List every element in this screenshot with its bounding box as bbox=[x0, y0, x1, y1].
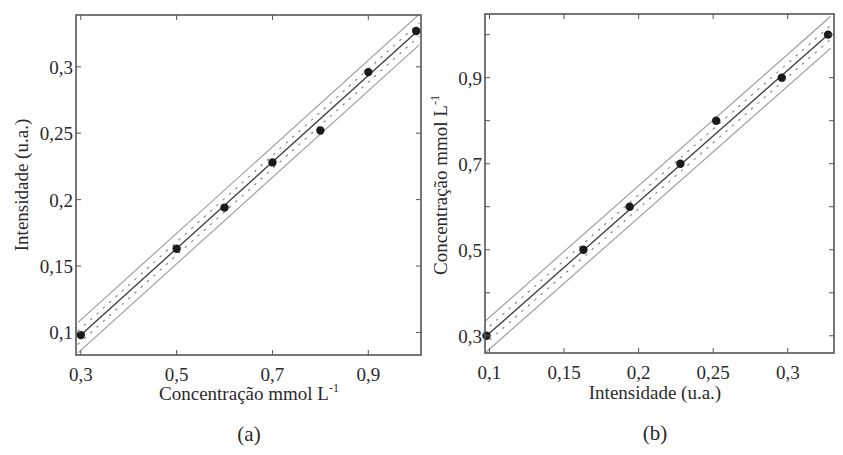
y-axis-label-text: Intensidade (u.a.) bbox=[11, 119, 33, 251]
data-point bbox=[412, 27, 420, 35]
x-tick-label: 0,7 bbox=[261, 364, 285, 385]
y-tick-label: 0,3 bbox=[458, 326, 482, 347]
x-tick-label: 0,3 bbox=[776, 362, 800, 383]
plot-area bbox=[78, 15, 419, 353]
data-point bbox=[579, 246, 587, 254]
y-tick-label: 0,7 bbox=[458, 154, 482, 175]
prediction-band-lower bbox=[484, 39, 831, 345]
x-tick-label: 0,9 bbox=[356, 364, 380, 385]
x-tick-label: 0,25 bbox=[697, 362, 730, 383]
x-axis-label: Concentração mmol L-1 bbox=[159, 381, 339, 404]
x-axis-label-text: Concentração mmol L bbox=[159, 383, 329, 404]
prediction-band-lower bbox=[78, 36, 419, 344]
regression-line bbox=[486, 35, 828, 336]
y-axis-label-superscript: -1 bbox=[428, 95, 442, 105]
data-point bbox=[625, 203, 633, 211]
data-point bbox=[676, 160, 684, 168]
confidence-band-upper bbox=[484, 16, 831, 322]
y-tick-label: 0,5 bbox=[458, 240, 482, 261]
x-tick-label: 0,1 bbox=[478, 362, 502, 383]
data-point bbox=[364, 68, 372, 76]
confidence-band-lower bbox=[484, 48, 831, 354]
y-axis-label-text: Concentração mmol L bbox=[430, 105, 451, 275]
y-tick-label: 0,2 bbox=[49, 190, 73, 211]
panel-label: (b) bbox=[643, 421, 668, 445]
x-tick-label: 0,3 bbox=[69, 364, 93, 385]
data-point bbox=[778, 73, 786, 81]
confidence-band-lower bbox=[78, 45, 419, 353]
confidence-band-upper bbox=[78, 15, 419, 323]
x-axis-label-superscript: -1 bbox=[329, 381, 339, 395]
panel-label: (a) bbox=[237, 422, 260, 446]
y-axis-label: Concentração mmol L-1 bbox=[428, 95, 451, 275]
y-tick-label: 0,1 bbox=[49, 322, 73, 343]
data-point bbox=[268, 158, 276, 166]
chart-panel-b: 0,10,150,20,250,30,30,50,70,9Intensidade… bbox=[428, 14, 834, 445]
axes-box bbox=[76, 15, 421, 355]
x-axis-label: Intensidade (u.a.) bbox=[589, 382, 721, 404]
prediction-band-upper bbox=[484, 25, 831, 331]
x-tick-label: 0,5 bbox=[165, 364, 189, 385]
y-tick-label: 0,3 bbox=[49, 57, 73, 78]
calibration-figure: 0,30,50,70,90,10,150,20,250,3Concentraçã… bbox=[0, 0, 843, 455]
data-point bbox=[220, 203, 228, 211]
x-axis-label-text: Intensidade (u.a.) bbox=[589, 382, 721, 404]
x-tick-label: 0,2 bbox=[627, 362, 651, 383]
regression-line bbox=[81, 32, 416, 335]
y-tick-label: 0,15 bbox=[40, 256, 73, 277]
data-point bbox=[172, 245, 180, 253]
data-point bbox=[316, 126, 324, 134]
y-axis-label: Intensidade (u.a.) bbox=[11, 119, 33, 251]
y-tick-label: 0,25 bbox=[40, 123, 73, 144]
chart-panel-a: 0,30,50,70,90,10,150,20,250,3Concentraçã… bbox=[11, 15, 421, 446]
y-tick-label: 0,9 bbox=[458, 68, 482, 89]
data-point bbox=[712, 116, 720, 124]
plot-area bbox=[484, 16, 831, 354]
x-tick-label: 0,15 bbox=[547, 362, 580, 383]
